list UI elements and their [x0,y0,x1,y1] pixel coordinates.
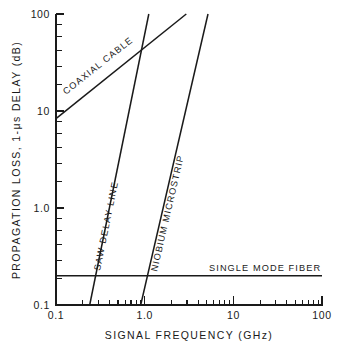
y-tick-label-1: 1.0 [34,202,50,214]
series-label-niobium-microstrip: NIOBIUM MICROSTRIP [149,154,186,273]
series-label-single-mode-fiber: SINGLE MODE FIBER [209,263,321,273]
chart-canvas: COAXIAL CABLE SAW DELAY LINE NIOBIUM MIC… [0,0,344,356]
series-label-coaxial-cable: COAXIAL CABLE [61,35,135,97]
x-tick-labels: 0.1 1.0 10 100 [48,309,332,321]
y-tick-label-100: 100 [31,8,50,20]
series-labels-group: COAXIAL CABLE SAW DELAY LINE NIOBIUM MIC… [61,35,321,273]
x-tick-marks [56,296,322,305]
y-tick-labels: 100 10 1.0 0.1 [31,8,50,311]
series-line-coaxial-cable[interactable] [56,14,186,119]
series-label-saw-delay-line: SAW DELAY LINE [92,180,120,271]
x-tick-label-100: 100 [312,309,331,321]
y-tick-marks [56,14,64,305]
x-tick-label-0.1: 0.1 [48,309,64,321]
x-tick-label-10: 10 [227,309,240,321]
y-axis-title: PROPAGATION LOSS, 1-μs DELAY (dB) [10,41,22,279]
x-axis-title: SIGNAL FREQUENCY (GHz) [105,329,273,341]
figure-container: COAXIAL CABLE SAW DELAY LINE NIOBIUM MIC… [0,0,344,356]
x-tick-label-1.0: 1.0 [136,309,152,321]
y-tick-label-10: 10 [37,105,50,117]
